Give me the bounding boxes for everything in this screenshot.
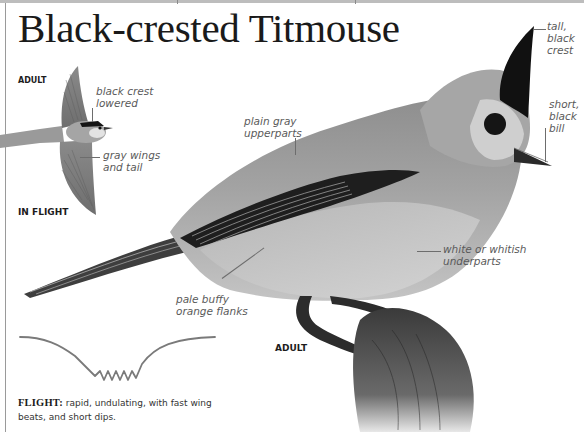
leader-line xyxy=(295,138,296,155)
flight-adult-label: ADULT xyxy=(18,76,47,85)
callout-short-black-bill: short, black bill xyxy=(549,98,579,134)
callout-pale-buffy-orange-flanks: pale buffy orange flanks xyxy=(176,293,248,317)
callout-black-crest-lowered: black crest lowered xyxy=(96,85,153,109)
leader-line xyxy=(534,29,546,30)
flight-pattern-caption: FLIGHT: rapid, undulating, with fast win… xyxy=(18,396,233,424)
bird-illustrations xyxy=(0,0,584,432)
leader-line xyxy=(545,128,546,162)
callout-tall-black-crest: tall, black crest xyxy=(547,20,575,56)
callout-gray-wings-tail: gray wings and tail xyxy=(103,149,160,173)
leader-line xyxy=(92,108,93,122)
leader-line xyxy=(80,157,100,158)
callout-plain-gray-upperparts: plain gray upperparts xyxy=(244,115,302,139)
flight-keyword: FLIGHT: xyxy=(18,397,63,408)
in-flight-label: IN FLIGHT xyxy=(18,207,68,217)
flight-path-diagram xyxy=(20,337,215,380)
main-adult-label: ADULT xyxy=(275,343,307,353)
leader-line xyxy=(417,251,441,252)
callout-white-underparts: white or whitish underparts xyxy=(443,243,526,267)
